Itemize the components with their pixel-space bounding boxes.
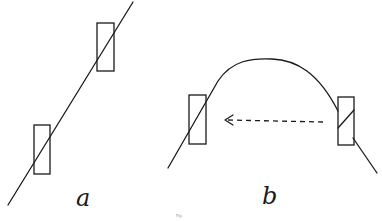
figure-canvas: a b Fig.: [0, 0, 382, 221]
panel-b-arch-curve: [168, 59, 338, 168]
panel-b-descending-line: [353, 138, 377, 173]
panel-b-label: b: [262, 182, 277, 210]
panel-b: b: [168, 59, 377, 210]
panel-a: a: [8, 2, 133, 212]
panel-b-dashed-arrow-shaft: [228, 120, 323, 122]
figure-caption-fragment: Fig.: [176, 213, 183, 218]
panel-b-right-rect-diagonal: [338, 110, 354, 128]
panel-b-left-rectangle: [189, 95, 206, 144]
panel-b-right-rectangle: [338, 97, 354, 145]
panel-a-label: a: [76, 184, 90, 212]
